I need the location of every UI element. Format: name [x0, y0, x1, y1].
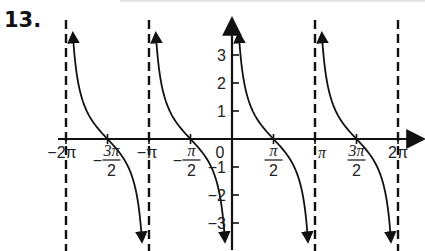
svg-text:−: −	[173, 152, 182, 169]
fraction-label: π2	[265, 142, 283, 179]
y-tick-label: 1	[217, 103, 226, 120]
svg-text:2: 2	[269, 162, 278, 179]
cotangent-graph: −2π−ππ2π−3π2−π2π23π20−3−2−1123	[0, 0, 425, 251]
fraction-label: −π2	[173, 142, 201, 179]
tick-label-neg-2pi: −2π	[47, 144, 76, 161]
svg-text:2: 2	[187, 162, 196, 179]
svg-text:π: π	[187, 142, 196, 159]
y-tick-label: −1	[208, 159, 226, 176]
svg-text:3π: 3π	[102, 142, 120, 159]
tick-label-pi: π	[318, 144, 327, 161]
y-tick-label: −2	[208, 187, 226, 204]
svg-text:3π: 3π	[347, 142, 365, 159]
svg-text:−: −	[93, 152, 102, 169]
svg-text:2: 2	[107, 162, 116, 179]
fraction-label: 3π2	[347, 142, 365, 179]
y-tick-label: 2	[217, 75, 226, 92]
svg-text:2: 2	[352, 162, 361, 179]
y-tick-label: −3	[208, 215, 226, 232]
y-tick-label: 3	[217, 47, 226, 64]
tick-label-neg-pi: −π	[137, 144, 157, 161]
fraction-label: −3π2	[93, 142, 121, 179]
tick-label-2pi: 2π	[388, 144, 408, 161]
svg-text:π: π	[269, 142, 278, 159]
